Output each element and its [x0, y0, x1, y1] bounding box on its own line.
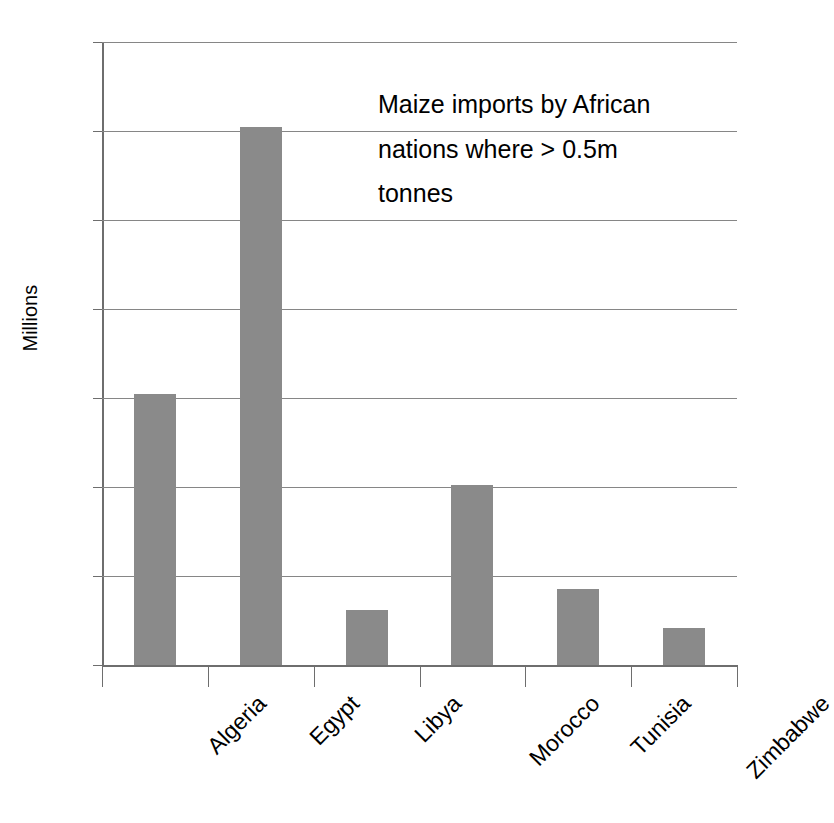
x-tick-label: Algeria — [202, 690, 272, 760]
x-tick-mark — [314, 665, 315, 687]
bar — [240, 127, 282, 665]
x-tick-label: Egypt — [304, 690, 365, 751]
x-tick-mark — [208, 665, 209, 687]
y-tick-mark — [93, 665, 102, 666]
x-tick-label: Zimbabwe — [741, 690, 834, 784]
gridline — [102, 309, 737, 310]
chart-title-line: tonnes — [378, 171, 650, 216]
x-tick-label: Morocco — [524, 690, 605, 771]
chart-title: Maize imports by Africannations where > … — [378, 82, 650, 216]
bar — [557, 589, 599, 665]
x-tick-mark — [420, 665, 421, 687]
y-tick-mark — [93, 42, 102, 43]
y-axis-title: Millions — [19, 308, 42, 352]
y-tick-mark — [93, 487, 102, 488]
x-tick-mark — [631, 665, 632, 687]
gridline — [102, 220, 737, 221]
y-tick-mark — [93, 309, 102, 310]
bar — [346, 610, 388, 665]
bar — [663, 628, 705, 665]
gridline — [102, 576, 737, 577]
gridline — [102, 398, 737, 399]
y-tick-mark — [93, 220, 102, 221]
gridline — [102, 42, 737, 43]
gridline — [102, 487, 737, 488]
x-tick-mark — [102, 665, 103, 687]
x-tick-mark — [737, 665, 738, 687]
y-tick-mark — [93, 131, 102, 132]
bar — [134, 394, 176, 665]
bar — [451, 485, 493, 665]
chart-title-line: nations where > 0.5m — [378, 127, 650, 172]
x-tick-mark — [525, 665, 526, 687]
chart-title-line: Maize imports by African — [378, 82, 650, 127]
y-tick-mark — [93, 398, 102, 399]
x-tick-label: Tunisia — [626, 690, 697, 761]
y-tick-mark — [93, 576, 102, 577]
x-tick-label: Libya — [409, 690, 467, 748]
